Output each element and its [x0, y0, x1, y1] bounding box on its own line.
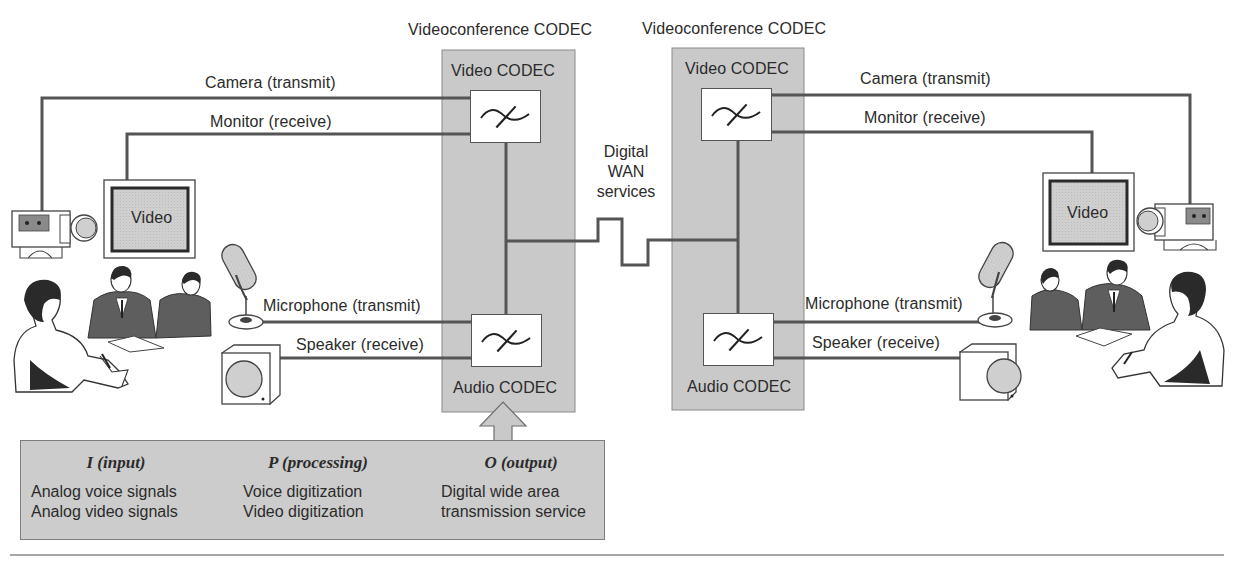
left-monitor-wire	[127, 134, 471, 180]
ipo-input-column: I (input) Analog voice signals Analog vi…	[31, 453, 201, 522]
wan-label-line: WAN	[588, 162, 664, 182]
left-speaker-label: Speaker (receive)	[296, 336, 424, 354]
ipo-output-line: transmission service	[441, 502, 601, 522]
ipo-input-heading: I (input)	[31, 453, 201, 473]
ipo-processing-line: Voice digitization	[243, 482, 393, 502]
right-video-codec-box	[701, 88, 772, 141]
ipo-output-column: O (output) Digital wide area transmissio…	[441, 453, 601, 522]
right-camera-icon	[1137, 204, 1216, 250]
right-audio-codec-box	[703, 313, 774, 366]
ipo-processing-heading: P (processing)	[243, 453, 393, 473]
left-video-codec-box	[470, 90, 541, 143]
left-audio-codec-box	[471, 314, 542, 367]
wan-label-line: Digital	[588, 142, 664, 162]
right-speaker-icon	[960, 344, 1021, 400]
wan-services-label: Digital WAN services	[588, 142, 664, 202]
analog-digital-converter-icon	[471, 91, 540, 142]
ipo-output-heading: O (output)	[441, 453, 601, 473]
left-monitor-screen-text: Video	[131, 209, 172, 227]
right-microphone-label: Microphone (transmit)	[805, 295, 963, 313]
wan-label-line: services	[588, 182, 664, 202]
ipo-processing-line: Video digitization	[243, 502, 393, 522]
right-monitor-screen-text: Video	[1067, 204, 1108, 222]
right-camera-label: Camera (transmit)	[860, 70, 991, 88]
ipo-processing-column: P (processing) Voice digitization Video …	[243, 453, 393, 522]
left-participants-icon	[14, 266, 211, 392]
ipo-input-line: Analog video signals	[31, 502, 201, 522]
ipo-input-line: Analog voice signals	[31, 482, 201, 502]
right-video-codec-label: Video CODEC	[685, 60, 789, 78]
ipo-output-line: Digital wide area	[441, 482, 601, 502]
right-codec-title: Videoconference CODEC	[642, 20, 826, 38]
analog-digital-converter-icon	[702, 89, 771, 140]
left-microphone-icon	[218, 241, 263, 329]
left-codec-title: Videoconference CODEC	[408, 21, 592, 39]
left-speaker-icon	[222, 345, 280, 404]
right-speaker-label: Speaker (receive)	[812, 334, 940, 352]
right-microphone-icon	[975, 239, 1017, 327]
right-participants-icon	[1030, 260, 1224, 386]
left-camera-label: Camera (transmit)	[205, 74, 336, 92]
right-monitor-wire	[771, 132, 1092, 175]
analog-digital-converter-icon	[704, 314, 773, 365]
left-video-codec-label: Video CODEC	[451, 62, 555, 80]
ipo-summary-box: I (input) Analog voice signals Analog vi…	[20, 440, 605, 540]
left-camera-icon	[12, 211, 97, 258]
right-audio-codec-label: Audio CODEC	[687, 378, 791, 396]
right-monitor-label: Monitor (receive)	[864, 109, 986, 127]
left-audio-codec-label: Audio CODEC	[453, 379, 557, 397]
left-monitor-label: Monitor (receive)	[210, 113, 332, 131]
analog-digital-converter-icon	[472, 315, 541, 366]
left-microphone-label: Microphone (transmit)	[263, 297, 421, 315]
